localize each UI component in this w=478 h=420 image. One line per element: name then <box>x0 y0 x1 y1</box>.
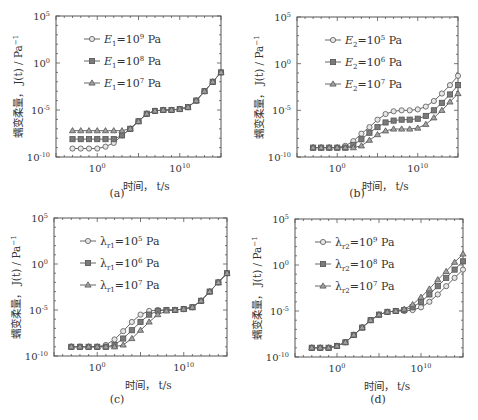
svg-text:10-10: 10-10 <box>27 151 50 163</box>
panel-caption: (b) <box>349 187 365 200</box>
svg-text:λr1=106 Pa: λr1=106 Pa <box>100 257 160 272</box>
svg-text:E2=106 Pa: E2=106 Pa <box>344 56 403 71</box>
x-axis-label: 时间， t/s <box>123 180 169 192</box>
legend-item: E2=105 Pa <box>325 34 403 49</box>
legend-item: λr2=109 Pa <box>315 236 395 251</box>
svg-text:10-5: 10-5 <box>272 104 291 116</box>
legend: E2=105 PaE2=106 PaE2=107 Pa <box>325 34 403 93</box>
svg-text:10-10: 10-10 <box>25 350 48 362</box>
svg-text:100: 100 <box>31 258 48 270</box>
svg-text:E2=107 Pa: E2=107 Pa <box>344 78 403 93</box>
svg-text:E2=105 Pa: E2=105 Pa <box>344 34 403 49</box>
y-axis-label: 蠕变柔量， J(t) / Pa−1 <box>10 235 22 338</box>
legend-item: λr1=107 Pa <box>80 279 160 294</box>
chart-panel-a: 10-1010-51001051001010时间， t/s蠕变柔量， J(t) … <box>12 10 224 200</box>
svg-text:E1=107 Pa: E1=107 Pa <box>103 77 162 92</box>
legend-item: E2=106 Pa <box>325 56 403 71</box>
legend-item: λr2=108 Pa <box>315 258 395 273</box>
x-tick-labels: 1001010 <box>89 162 190 174</box>
svg-text:λr2=109 Pa: λr2=109 Pa <box>335 236 395 251</box>
svg-text:100: 100 <box>33 57 50 69</box>
svg-text:λr1=105 Pa: λr1=105 Pa <box>100 235 160 250</box>
svg-text:10-10: 10-10 <box>266 351 289 363</box>
svg-text:10-5: 10-5 <box>31 104 50 116</box>
legend: E1=109 PaE1=108 PaE1=107 Pa <box>84 33 162 92</box>
svg-text:10-5: 10-5 <box>270 305 289 317</box>
svg-text:100: 100 <box>274 58 291 70</box>
panel-caption: (a) <box>109 187 124 200</box>
svg-text:105: 105 <box>272 213 289 225</box>
legend: λr1=105 Paλr1=106 Paλr1=107 Pa <box>80 235 160 294</box>
legend-item: E1=109 Pa <box>84 33 162 48</box>
legend: λr2=109 Paλr2=108 Paλr2=107 Pa <box>315 236 395 295</box>
x-axis-label: 时间， t/s <box>364 380 410 392</box>
figure-svg: 10-1010-51001051001010时间， t/s蠕变柔量， J(t) … <box>0 0 478 420</box>
svg-text:10-5: 10-5 <box>29 304 48 316</box>
y-tick-labels: 10-1010-5100105 <box>266 213 289 363</box>
legend-item: E1=107 Pa <box>84 77 162 92</box>
svg-text:105: 105 <box>33 10 50 22</box>
legend-item: λr1=106 Pa <box>80 257 160 272</box>
svg-text:100: 100 <box>89 361 106 373</box>
svg-text:E1=109 Pa: E1=109 Pa <box>103 33 162 48</box>
panel-caption: (d) <box>370 393 386 406</box>
y-tick-labels: 10-1010-5100105 <box>268 11 291 163</box>
svg-text:105: 105 <box>274 11 291 23</box>
y-axis-label: 蠕变柔量， J(t) / Pa−1 <box>251 236 263 339</box>
series-square <box>309 259 465 351</box>
x-axis-label: 时间， t/s <box>362 180 408 192</box>
svg-text:100: 100 <box>329 362 346 374</box>
svg-text:λr2=108 Pa: λr2=108 Pa <box>335 258 395 273</box>
svg-text:1010: 1010 <box>410 362 431 374</box>
legend-item: E2=107 Pa <box>325 78 403 93</box>
svg-text:100: 100 <box>272 259 289 271</box>
svg-text:1010: 1010 <box>407 162 428 174</box>
svg-text:105: 105 <box>31 212 48 224</box>
svg-text:1010: 1010 <box>169 162 190 174</box>
chart-panel-c: 10-1010-51001051001010时间， t/s蠕变柔量， J(t) … <box>10 212 230 406</box>
svg-text:E1=108 Pa: E1=108 Pa <box>103 55 162 70</box>
x-axis-label: 时间， t/s <box>125 379 171 391</box>
svg-text:100: 100 <box>89 162 106 174</box>
chart-panel-d: 10-1010-51001051001010时间， t/s蠕变柔量， J(t) … <box>251 213 466 406</box>
legend-item: λr2=107 Pa <box>315 280 395 295</box>
svg-text:100: 100 <box>329 162 346 174</box>
x-tick-labels: 1001010 <box>329 162 428 174</box>
y-axis-label: 蠕变柔量， J(t) / Pa−1 <box>253 35 265 138</box>
x-tick-labels: 1001010 <box>89 361 194 373</box>
y-axis-label: 蠕变柔量， J(t) / Pa−1 <box>12 35 24 138</box>
svg-text:λr2=107 Pa: λr2=107 Pa <box>335 280 395 295</box>
legend-item: E1=108 Pa <box>84 55 162 70</box>
svg-text:10-10: 10-10 <box>268 151 291 163</box>
y-tick-labels: 10-1010-5100105 <box>27 10 50 163</box>
legend-item: λr1=105 Pa <box>80 235 160 250</box>
y-tick-labels: 10-1010-5100105 <box>25 212 48 362</box>
x-tick-labels: 1001010 <box>329 362 432 374</box>
chart-panel-b: 10-1010-51001051001010时间， t/s蠕变柔量， J(t) … <box>253 11 461 200</box>
panel-caption: (c) <box>110 393 125 406</box>
svg-text:λr1=107 Pa: λr1=107 Pa <box>100 279 160 294</box>
svg-text:1010: 1010 <box>173 361 194 373</box>
